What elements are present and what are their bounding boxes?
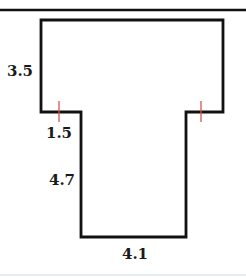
label-stem-bottom-width: 4.1 (122, 247, 148, 262)
t-shape-diagram (0, 0, 246, 278)
label-top-left-height: 3.5 (7, 64, 33, 79)
label-stem-height: 4.7 (49, 173, 75, 188)
label-ledge-width: 1.5 (46, 126, 72, 141)
